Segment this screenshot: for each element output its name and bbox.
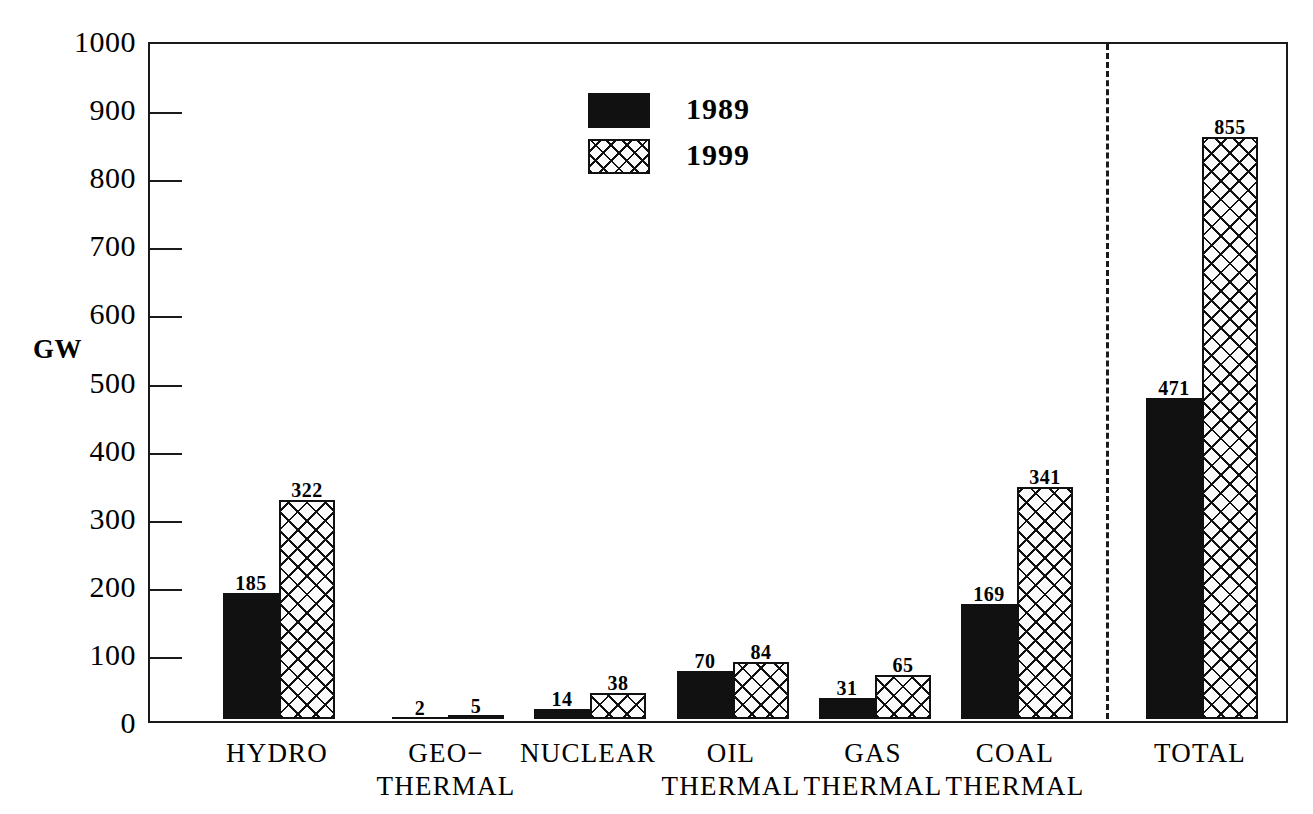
bar-value-label: 169 [973,584,1005,604]
bar-coal-1989 [961,604,1017,719]
bar-hydro-1989 [223,593,279,719]
bar-value-label: 471 [1158,378,1190,398]
bar-value-label: 14 [552,689,573,709]
bar-value-label: 322 [291,480,323,500]
bar-gas-1999 [875,675,931,719]
y-tick-label: 300 [90,504,137,534]
y-tick-label: 200 [90,572,137,602]
y-tick-mark [150,385,182,387]
bar-total-1999 [1202,137,1258,719]
x-axis-label-total: TOTAL [1154,737,1246,770]
legend: 19891999 [588,93,828,185]
bar-nuclear-1989 [534,709,590,719]
y-tick-mark [150,316,182,318]
bar-value-label: 84 [751,642,772,662]
y-axis: 10009008007006005004003002001000 [0,0,148,814]
y-tick-label: 500 [90,368,137,398]
bar-value-label: 2 [415,698,426,718]
bar-oil-1989 [677,671,733,719]
bar-value-label: 855 [1214,117,1246,137]
total-separator-line [1106,44,1109,719]
x-axis-label-gas: GAS THERMAL [804,737,943,803]
bar-oil-1999 [733,662,789,719]
bar-nuclear-1999 [590,693,646,719]
y-tick-label: 600 [90,299,137,329]
y-tick-mark [150,589,182,591]
y-tick-label: 100 [90,640,137,670]
x-axis-label-nuclear: NUCLEAR [520,737,656,770]
bar-value-label: 5 [471,696,482,716]
bar-value-label: 185 [235,573,267,593]
bar-value-label: 38 [608,673,629,693]
legend-swatch-1989 [588,93,650,128]
y-tick-mark [150,521,182,523]
legend-swatch-1999 [588,139,650,174]
y-tick-label: 800 [90,163,137,193]
bar-chart: 10009008007006005004003002001000 GW 1853… [0,0,1313,814]
bar-value-label: 31 [837,678,858,698]
bar-coal-1999 [1017,487,1073,719]
bar-total-1989 [1146,398,1202,719]
y-tick-label: 900 [90,95,137,125]
bar-value-label: 70 [695,651,716,671]
y-tick-mark [150,657,182,659]
bar-gas-1989 [819,698,875,719]
y-axis-title: GW [33,334,82,364]
legend-entry-1989: 1989 [588,93,828,139]
x-axis-label-coal: COAL THERMAL [946,737,1085,803]
y-tick-label: 1000 [74,27,136,57]
y-tick-label: 0 [121,708,137,738]
y-tick-label: 700 [90,231,137,261]
bar-value-label: 341 [1029,467,1061,487]
y-tick-mark [150,112,182,114]
legend-label-1989: 1989 [686,90,750,128]
legend-entry-1999: 1999 [588,139,828,185]
bar-value-label: 65 [893,655,914,675]
y-tick-mark [150,248,182,250]
x-axis-label-oil: OIL THERMAL [662,737,801,803]
bar-hydro-1999 [279,500,335,719]
y-tick-label: 400 [90,436,137,466]
y-tick-mark [150,180,182,182]
x-axis-label-geo: GEO− THERMAL [377,737,516,803]
y-tick-mark [150,453,182,455]
x-axis-label-hydro: HYDRO [226,737,328,770]
legend-label-1999: 1999 [686,136,750,174]
